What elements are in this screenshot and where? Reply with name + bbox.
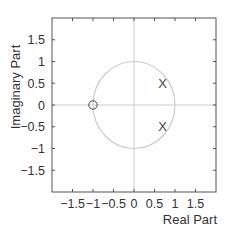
x-tick-label: 0.5: [146, 197, 163, 211]
y-tick-label: −1: [31, 142, 45, 156]
pole-zero-plot: XX −1.5−1−0.500.511.5 1.510.50−0.5−1−1.5…: [0, 0, 227, 232]
y-tick-label: 0: [38, 99, 45, 113]
y-axis-title: Imaginary Part: [8, 44, 23, 129]
y-tick-label: −0.5: [20, 120, 45, 134]
x-tick-label: −1: [86, 197, 100, 211]
x-tick-label: 1.5: [187, 197, 204, 211]
y-tick-label: −1.5: [20, 164, 45, 178]
x-axis-title: Real Part: [163, 212, 218, 227]
x-tick-label: −0.5: [101, 197, 126, 211]
x-tick-label: 1: [172, 197, 179, 211]
y-tick-label: 1: [38, 55, 45, 69]
pole-marker-icon: X: [158, 76, 167, 91]
unit-circle-layer: [52, 18, 216, 192]
x-tick-label: 0: [131, 197, 138, 211]
y-tick-label: 0.5: [28, 77, 45, 91]
x-tick-label: −1.5: [60, 197, 85, 211]
y-tick-label: 1.5: [28, 33, 45, 47]
x-ticks: −1.5−1−0.500.511.5: [60, 18, 204, 211]
pole-marker-icon: X: [158, 119, 167, 134]
